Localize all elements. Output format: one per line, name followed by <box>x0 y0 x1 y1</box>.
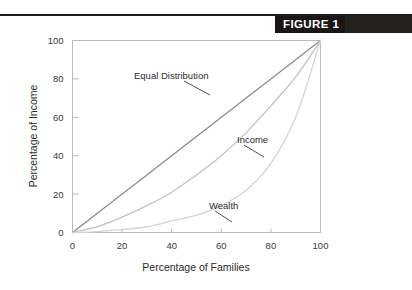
x-axis-ticks <box>122 229 271 233</box>
y-axis-tick-labels: 020406080100 <box>48 35 64 238</box>
x-axis-tick-labels: 020406080100 <box>70 240 329 251</box>
y-axis-ticks <box>73 41 79 195</box>
leader-line-income <box>244 145 264 157</box>
x-tick-label: 40 <box>166 240 177 251</box>
y-tick-label: 80 <box>53 73 64 84</box>
figure-page: FIGURE 1 020406080100 020406080100 Equal… <box>0 0 412 290</box>
y-tick-label: 20 <box>53 189 64 200</box>
y-tick-label: 60 <box>53 112 64 123</box>
annotation-equal-distribution: Equal Distribution <box>134 70 208 81</box>
x-tick-label: 100 <box>313 240 329 251</box>
y-tick-label: 0 <box>58 227 63 238</box>
y-tick-label: 100 <box>48 35 64 46</box>
y-axis-title: Percentage of Income <box>27 84 39 187</box>
leader-line-equal-distribution <box>184 81 210 95</box>
lorenz-curve-chart: 020406080100 020406080100 Equal Distribu… <box>0 0 412 290</box>
leader-line-wealth <box>215 211 232 222</box>
x-tick-label: 80 <box>266 240 277 251</box>
y-tick-label: 40 <box>53 150 64 161</box>
x-tick-label: 60 <box>216 240 227 251</box>
x-axis-title: Percentage of Families <box>142 261 249 273</box>
x-tick-label: 0 <box>70 240 75 251</box>
annotation-wealth: Wealth <box>209 200 238 211</box>
chart-svg: 020406080100 020406080100 Equal Distribu… <box>0 0 412 290</box>
annotation-income: Income <box>237 134 268 145</box>
x-tick-label: 20 <box>117 240 128 251</box>
